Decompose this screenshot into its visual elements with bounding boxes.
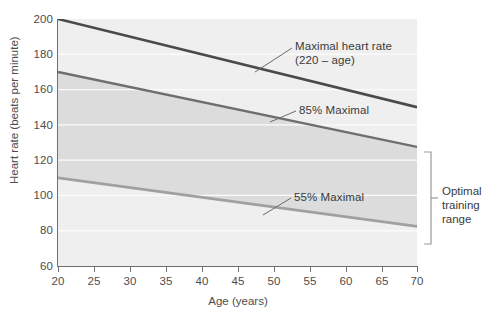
optimal-range-line2: training xyxy=(442,198,482,212)
x-tick-label: 45 xyxy=(223,275,253,287)
annotation-85-percent: 85% Maximal xyxy=(299,104,369,118)
x-tick-mark xyxy=(274,267,275,272)
annotation-maximal-line2: (220 – age) xyxy=(295,54,392,68)
x-tick-label: 25 xyxy=(79,275,109,287)
x-tick-label: 55 xyxy=(295,275,325,287)
x-tick-label: 30 xyxy=(115,275,145,287)
y-axis-line xyxy=(57,19,58,267)
x-tick-mark xyxy=(166,267,167,272)
x-tick-label: 70 xyxy=(402,275,432,287)
x-tick-label: 65 xyxy=(367,275,397,287)
heart-rate-training-zone-chart: 200 180 160 140 120 100 80 60 20 25 30 3… xyxy=(0,0,489,327)
y-tick-label: 60 xyxy=(28,260,53,272)
annotation-maximal-heart-rate: Maximal heart rate (220 – age) xyxy=(295,40,392,67)
x-tick-mark xyxy=(417,267,418,272)
y-tick-label: 200 xyxy=(28,13,53,25)
y-axis-title: Heart rate (beats per minute) xyxy=(8,64,20,184)
x-tick-label: 35 xyxy=(151,275,181,287)
y-tick-label: 140 xyxy=(28,119,53,131)
y-tick-label: 100 xyxy=(28,189,53,201)
x-tick-label: 60 xyxy=(331,275,361,287)
x-axis-title: Age (years) xyxy=(158,295,318,307)
x-tick-label: 20 xyxy=(43,275,73,287)
optimal-training-range-label: Optimal training range xyxy=(442,184,482,226)
y-tick-label: 160 xyxy=(28,83,53,95)
annotation-maximal-line1: Maximal heart rate xyxy=(295,40,392,54)
optimal-range-bracket xyxy=(424,152,431,244)
x-tick-mark xyxy=(202,267,203,272)
optimal-range-line3: range xyxy=(442,212,482,226)
x-tick-mark xyxy=(310,267,311,272)
x-tick-label: 40 xyxy=(187,275,217,287)
x-tick-mark xyxy=(238,267,239,272)
x-tick-mark xyxy=(94,267,95,272)
y-tick-label: 120 xyxy=(28,154,53,166)
x-tick-mark xyxy=(382,267,383,272)
y-tick-label: 180 xyxy=(28,48,53,60)
x-tick-label: 50 xyxy=(259,275,289,287)
x-tick-mark xyxy=(58,267,59,272)
x-tick-mark xyxy=(346,267,347,272)
x-tick-mark xyxy=(130,267,131,272)
y-tick-label: 80 xyxy=(28,224,53,236)
annotation-55-percent: 55% Maximal xyxy=(294,191,364,205)
optimal-range-line1: Optimal xyxy=(442,184,482,198)
